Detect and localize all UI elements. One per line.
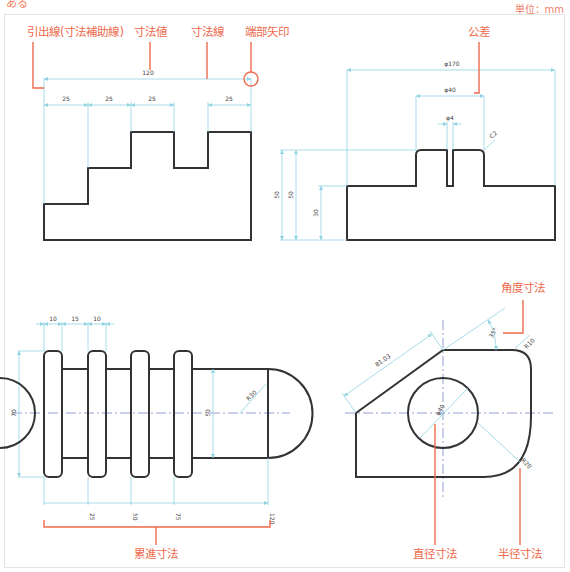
dim-cumulative-25: 25 (89, 513, 96, 521)
view-boss-block: φ170 φ40 φ4 C2 50 50 30 公差 (273, 25, 555, 240)
dim-angle-35: 35° (487, 326, 498, 339)
dim-height-70: 70 (10, 409, 17, 417)
view-plate-with-hole: 81.03 35° R10 φ40 R20 角度寸法 直径寸法 半径寸法 (0, 281, 555, 561)
view-stepped-block: 120 25 25 25 25 引出線(寸法補助線) 寸法値 寸法線 端部矢印 (27, 25, 289, 240)
dim-overall-120: 120 (142, 69, 154, 76)
callout-radius-dimension: 半径寸法 (498, 547, 542, 561)
view-flanged-shaft: 10 15 10 70 50 R30 25 50 75 120 累進寸法 (10, 315, 313, 561)
dim-radius-r10: R10 (523, 336, 536, 349)
dim-radius-r20: R20 (520, 457, 533, 470)
dim-slant-81-03: 81.03 (374, 352, 392, 368)
dim-phi-40: φ40 (444, 86, 456, 94)
dim-hole-phi-40: φ40 (434, 403, 447, 417)
technical-drawing: 120 25 25 25 25 引出線(寸法補助線) 寸法値 寸法線 端部矢印 (0, 0, 570, 572)
dim-chamfer-c2: C2 (488, 129, 499, 140)
dim-flange-10a: 10 (49, 315, 57, 322)
dim-height-30: 30 (312, 209, 319, 217)
callout-dimension-line: 寸法線 (191, 25, 225, 39)
dim-segment-1: 25 (62, 95, 70, 102)
callout-diameter-dimension: 直径寸法 (413, 547, 457, 561)
dim-segment-3: 25 (148, 95, 156, 102)
dim-height-50a: 50 (273, 191, 280, 199)
dim-flange-10b: 10 (93, 315, 101, 322)
dim-cumulative-75: 75 (175, 513, 182, 521)
dim-segment-4: 25 (225, 95, 233, 102)
callout-extension-line: 引出線(寸法補助線) (27, 25, 124, 39)
stepped-block-outline (44, 132, 251, 240)
callout-dimension-value: 寸法値 (134, 25, 168, 39)
callout-tolerance: 公差 (468, 25, 490, 39)
dim-height-50: 50 (204, 409, 211, 417)
dim-segment-2: 25 (105, 95, 113, 102)
dim-phi-4: φ4 (446, 114, 454, 122)
callout-cumulative-dimension: 累進寸法 (134, 547, 178, 561)
dim-phi-170: φ170 (444, 60, 460, 68)
dim-height-50b: 50 (287, 191, 294, 199)
dim-radius-r30: R30 (245, 388, 258, 401)
dim-cumulative-50: 50 (132, 513, 139, 521)
callout-angular-dimension: 角度寸法 (501, 281, 545, 295)
dim-gap-15: 15 (71, 315, 79, 322)
boss-block-outline (347, 150, 555, 240)
callout-terminal-arrow: 端部矢印 (245, 25, 289, 39)
